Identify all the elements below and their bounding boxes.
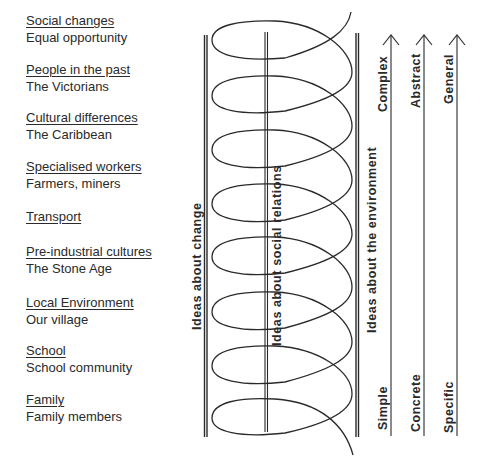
strand-label-environment: Ideas about the environment bbox=[365, 146, 379, 333]
label-complex: Complex bbox=[376, 56, 390, 112]
strand-bar-environment bbox=[356, 33, 359, 437]
strand-label-change: Ideas about change bbox=[190, 203, 204, 331]
label-concrete: Concrete bbox=[409, 374, 423, 432]
strand-bar-social bbox=[265, 32, 268, 432]
label-general: General bbox=[442, 54, 456, 104]
label-simple: Simple bbox=[376, 386, 390, 430]
strand-bar-change bbox=[205, 35, 208, 437]
spiral-curriculum-diagram: Ideas about change Ideas about social re… bbox=[0, 0, 485, 462]
label-specific: Specific bbox=[442, 381, 456, 433]
strand-label-social: Ideas about social relations bbox=[270, 165, 284, 346]
label-abstract: Abstract bbox=[409, 53, 423, 108]
